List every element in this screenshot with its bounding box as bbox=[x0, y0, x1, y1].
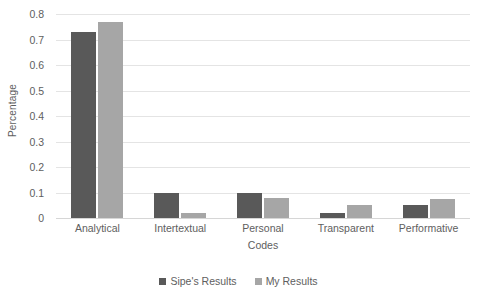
y-axis-tick-label: 0.5 bbox=[29, 85, 44, 97]
x-axis-tick-label: Personal bbox=[222, 222, 305, 234]
bar-group bbox=[222, 14, 305, 218]
bar bbox=[347, 205, 372, 218]
legend-item[interactable]: Sipe's Results bbox=[159, 275, 236, 287]
y-axis-tick-label: 0.6 bbox=[29, 59, 44, 71]
bar bbox=[430, 199, 455, 218]
bar bbox=[264, 198, 289, 218]
x-axis-tick-labels: AnalyticalIntertextualPersonalTransparen… bbox=[56, 222, 470, 234]
bar-groups bbox=[56, 14, 470, 218]
legend-swatch-icon bbox=[255, 278, 262, 285]
bar bbox=[403, 205, 428, 218]
y-axis-tick-label: 0.4 bbox=[29, 110, 44, 122]
legend-swatch-icon bbox=[159, 278, 166, 285]
bar-group bbox=[387, 14, 470, 218]
gridline bbox=[56, 218, 470, 219]
bar-chart: Percentage 0.80.70.60.50.40.30.20.10 Ana… bbox=[0, 0, 477, 295]
bar bbox=[320, 213, 345, 218]
bar-group bbox=[304, 14, 387, 218]
y-axis-tick-label: 0.1 bbox=[29, 187, 44, 199]
bar bbox=[98, 22, 123, 218]
bar bbox=[154, 193, 179, 219]
bar bbox=[181, 213, 206, 218]
chart-legend: Sipe's ResultsMy Results bbox=[0, 275, 477, 287]
y-axis-tick-label: 0.7 bbox=[29, 34, 44, 46]
y-axis-tick-label: 0 bbox=[38, 212, 44, 224]
y-axis-tick-label: 0.3 bbox=[29, 136, 44, 148]
x-axis-tick-label: Intertextual bbox=[139, 222, 222, 234]
legend-item[interactable]: My Results bbox=[255, 275, 318, 287]
x-axis-tick-label: Performative bbox=[387, 222, 470, 234]
bar bbox=[71, 32, 96, 218]
legend-label: My Results bbox=[266, 275, 318, 287]
x-axis-tick-label: Analytical bbox=[56, 222, 139, 234]
legend-label: Sipe's Results bbox=[170, 275, 236, 287]
y-axis-tick-label: 0.2 bbox=[29, 161, 44, 173]
bar bbox=[237, 193, 262, 219]
y-axis-tick-label: 0.8 bbox=[29, 8, 44, 20]
x-axis-title: Codes bbox=[56, 239, 470, 251]
bar-group bbox=[139, 14, 222, 218]
x-axis-tick-label: Transparent bbox=[304, 222, 387, 234]
y-axis-tick-labels: 0.80.70.60.50.40.30.20.10 bbox=[0, 14, 50, 218]
bar-group bbox=[56, 14, 139, 218]
